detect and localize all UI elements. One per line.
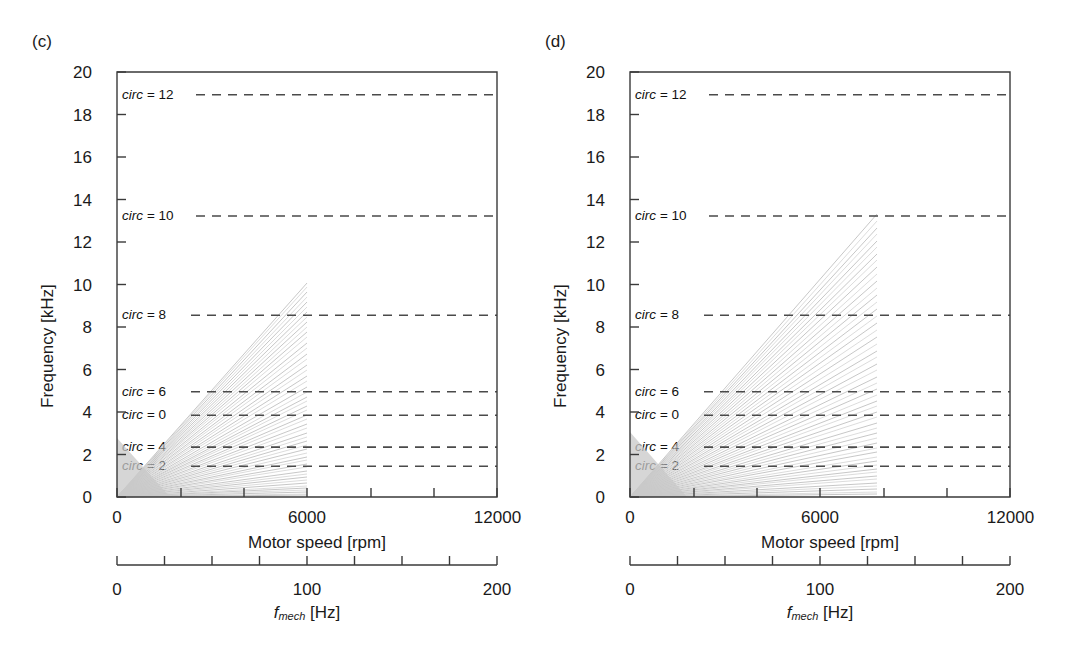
- y-ticks-d: [630, 72, 639, 497]
- secondary-axis-d: [630, 556, 1010, 565]
- order-ray-fan-d: [630, 214, 877, 497]
- plot-area-c: [0, 0, 537, 646]
- y-ticks-c: [117, 72, 126, 497]
- plot-area-d: [537, 0, 1074, 646]
- panel-c: (c) Frequency [kHz] 20 18 16 14 12 10 8 …: [0, 0, 537, 646]
- secondary-axis-c: [117, 556, 497, 565]
- figure-root: (c) Frequency [kHz] 20 18 16 14 12 10 8 …: [0, 0, 1074, 646]
- circ-lines-c: [191, 95, 497, 467]
- panel-d: (d) Frequency [kHz] 20 18 16 14 12 10 8 …: [537, 0, 1074, 646]
- order-ray-fan-dense-d: [630, 221, 877, 497]
- circ-lines-d: [704, 95, 1010, 467]
